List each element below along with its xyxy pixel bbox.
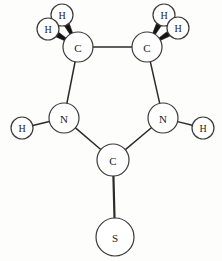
atom-circle-c2: [132, 32, 162, 62]
atom-carbon-c2[interactable]: C: [132, 32, 162, 62]
atom-circle-h5: [11, 117, 33, 139]
atom-circle-s1: [96, 218, 134, 256]
atom-circle-n2: [148, 103, 178, 133]
atom-circle-h4: [167, 17, 189, 39]
atom-circle-h2: [37, 18, 59, 40]
atom-sulfur-s1[interactable]: S: [96, 218, 134, 256]
bond-c1-n1: [67, 61, 76, 105]
bond-c3-s1: [113, 175, 114, 219]
bond-n1-h5: [32, 121, 51, 125]
atom-hydrogen-h6[interactable]: H: [192, 117, 214, 139]
atom-carbon-c3[interactable]: C: [97, 144, 129, 176]
atom-hydrogen-h5[interactable]: H: [11, 117, 33, 139]
atom-circle-h6: [192, 117, 214, 139]
bond-c2-n2: [150, 61, 160, 105]
atom-circle-c3: [97, 144, 129, 176]
atom-carbon-c1[interactable]: C: [63, 32, 93, 62]
molecule-diagram-canvas: CCNNCSHHHHHH: [0, 0, 222, 261]
atom-nitrogen-n1[interactable]: N: [49, 103, 79, 133]
atom-hydrogen-h4[interactable]: H: [167, 17, 189, 39]
molecule-svg: CCNNCSHHHHHH: [0, 0, 222, 261]
bond-n2-c3: [124, 127, 152, 150]
atom-circle-c1: [63, 32, 93, 62]
bond-n2-h6: [177, 121, 194, 125]
atom-hydrogen-h2[interactable]: H: [37, 18, 59, 40]
atom-circle-n1: [49, 103, 79, 133]
atom-nitrogen-n2[interactable]: N: [148, 103, 178, 133]
bond-n1-c3: [75, 127, 102, 150]
atom-layer: CCNNCSHHHHHH: [11, 4, 214, 256]
